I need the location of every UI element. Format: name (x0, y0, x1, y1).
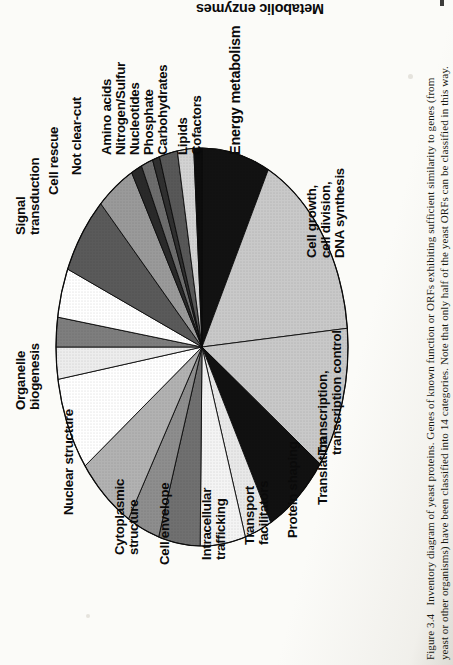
label-energy-metabolism: Energy metabolism (228, 26, 243, 155)
label-transcription-line1: Transcription, (316, 371, 330, 455)
label-transport-facilitators-line1: Transport (243, 486, 257, 545)
label-intracellular-trafficking-line2: trafficking (214, 498, 228, 560)
figure-caption-line2: yeast or other organisms) have been clas… (438, 66, 450, 660)
label-nitrogen-sulfur: Nitrogen/Sulfur (114, 62, 128, 155)
label-nucleotides: Nucleotides (128, 82, 142, 155)
label-transport-facilitators-line2: facilitators (257, 481, 271, 545)
label-cytoplasmic-structure-line2: structure (127, 500, 141, 555)
label-intracellular-trafficking-line1: Intracellular (200, 488, 214, 560)
label-metabolic-enzymes: Metabolic enzymes (196, 1, 324, 16)
label-signal-transduction-line1: Signal (14, 197, 28, 235)
figure-caption-line1: Figure 3.4 Inventory diagram of yeast pr… (424, 78, 436, 660)
label-not-clear-cut: Not clear-cut (70, 97, 84, 175)
label-lipids: Lipids (176, 117, 190, 155)
label-cofactors: Cofactors (190, 95, 204, 155)
label-cell-envelope: Cell envelope (158, 483, 172, 565)
scan-speck (408, 74, 413, 79)
label-carbohydrates: Carbohydrates (156, 65, 170, 155)
label-amino-acids: Amino acids (100, 79, 114, 155)
label-protein-shaping: Protein shaping (286, 441, 300, 538)
label-cell-growth-line1: Cell growth, (305, 185, 319, 258)
label-nuclear-structure: Nuclear structure (62, 409, 76, 515)
label-organelle-biogenesis-line1: Organelle (14, 351, 28, 410)
label-cytoplasmic-structure-line1: Cytoplasmic (113, 479, 127, 555)
scan-speck (86, 614, 90, 618)
label-cell-growth-line2: cell division, (319, 182, 333, 258)
label-organelle-biogenesis-line2: biogenesis (28, 343, 42, 410)
label-phosphate: Phosphate (142, 89, 156, 155)
label-signal-transduction-line2: transduction (28, 158, 42, 235)
scan-mark (440, 0, 444, 6)
label-cell-growth-line3: DNA synthesis (333, 168, 347, 258)
label-transcription-line2: transcription control (330, 330, 344, 455)
label-cell-rescue: Cell rescue (47, 127, 61, 195)
